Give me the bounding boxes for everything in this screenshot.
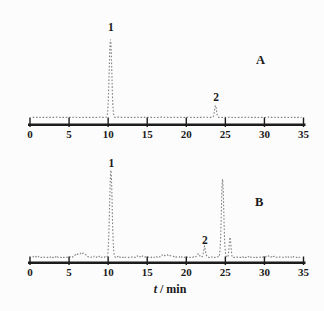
x-tick-label-B: 10 (103, 266, 115, 278)
peak-label-1-A: 1 (108, 21, 114, 33)
x-tick-label-B: 15 (142, 266, 154, 278)
x-tick-label-B: 20 (181, 266, 193, 278)
chromatogram-figure-wrap: 0510152025303512A0510152025303512Bt / mi… (0, 0, 324, 311)
peak-label-2-B: 2 (202, 234, 208, 246)
x-tick-label-A: 10 (103, 128, 115, 140)
x-tick-label-A: 15 (142, 128, 154, 140)
x-tick-label-A: 20 (181, 128, 193, 140)
panel-A: 0510152025303512A (27, 21, 309, 140)
x-tick-label-B: 25 (220, 266, 232, 278)
x-tick-label-B: 35 (298, 266, 310, 278)
panel-B: 0510152025303512Bt / min (27, 157, 309, 296)
panel-letter-B: B (255, 195, 263, 209)
x-tick-label-A: 0 (27, 128, 33, 140)
x-tick-label-B: 30 (259, 266, 271, 278)
peak-label-1-B: 1 (109, 157, 115, 169)
x-tick-label-A: 5 (66, 128, 72, 140)
peak-label-2-A: 2 (213, 91, 219, 103)
trace-B (33, 170, 302, 257)
panel-letter-A: A (256, 53, 265, 67)
x-tick-label-A: 30 (259, 128, 271, 140)
x-axis-title: t / min (154, 282, 187, 296)
x-tick-label-A: 25 (220, 128, 232, 140)
chromatogram-figure: 0510152025303512A0510152025303512Bt / mi… (0, 0, 324, 311)
x-tick-label-B: 0 (27, 266, 33, 278)
x-tick-label-A: 35 (298, 128, 310, 140)
x-tick-label-B: 5 (66, 266, 72, 278)
trace-A (33, 40, 302, 118)
